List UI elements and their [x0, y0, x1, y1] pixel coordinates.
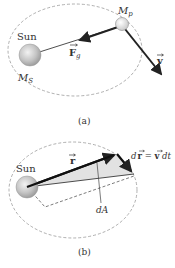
caption-a: (a): [78, 116, 90, 126]
sun-label-b: Sun: [16, 163, 36, 174]
svg-text:Fg: Fg: [69, 47, 81, 60]
displacement-label: dr = v dt: [131, 150, 172, 161]
sun-label-a: Sun: [17, 31, 37, 42]
svg-text:r: r: [70, 155, 76, 166]
kepler-second-law-diagram: Sun MS Mp Fg v (a): [0, 0, 175, 268]
position-label: r: [69, 154, 76, 166]
sun-mass-label: MS: [17, 72, 33, 85]
velocity-label: v: [156, 54, 164, 66]
gravity-force-arrow: [80, 27, 118, 40]
panel-b: Sun r dr = v dt dA (b): [9, 142, 172, 257]
velocity-arrow: [125, 29, 161, 74]
svg-text:v: v: [156, 55, 164, 66]
gravity-force-label: Fg: [69, 44, 81, 60]
planet-mass-label: Mp: [117, 5, 133, 18]
panel-a: Sun MS Mp Fg v (a): [8, 4, 164, 126]
sun-icon: [19, 44, 41, 66]
area-label: dA: [96, 205, 109, 215]
planet-icon: [116, 18, 129, 31]
svg-text:dr = v dt: dr = v dt: [131, 151, 172, 161]
caption-b: (b): [78, 247, 91, 257]
